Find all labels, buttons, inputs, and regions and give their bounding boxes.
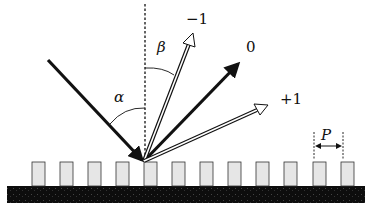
ridge [32,162,45,186]
ridge [60,162,73,186]
incident-ray-arrow [48,60,142,160]
zero-order-ray-arrow [144,64,238,161]
beta-arc [145,68,174,75]
ridge [284,162,297,186]
ridge [144,162,157,186]
label-alpha: α [114,88,124,106]
ridge [172,162,185,186]
ridge [313,162,326,186]
ridge [88,162,101,186]
ridge [341,162,354,186]
label-order-minus1: −1 [186,10,208,28]
label-order-zero: 0 [246,38,256,56]
grating-ridges [32,162,354,186]
label-order-plus1: +1 [280,90,302,108]
ridge [228,162,241,186]
label-period: P [320,126,332,144]
ridge [200,162,213,186]
diffraction-grating-diagram: −1 0 +1 α β P [0,0,370,216]
label-beta: β [156,38,166,56]
ridge [256,162,269,186]
substrate [7,186,365,203]
ridge [116,162,129,186]
alpha-arc [110,108,145,124]
